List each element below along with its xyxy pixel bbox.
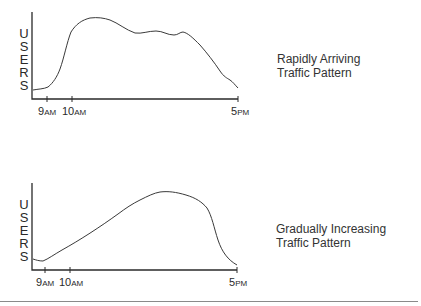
axes [32, 12, 238, 99]
y-axis-label: USERS [19, 26, 28, 93]
diagram-canvas: USERS 9AM 10AM 5PM USERS 9AM 10AM 5PM [0, 0, 421, 306]
traffic-curve-rapid [33, 18, 238, 90]
x-tick-label-9am: 9AM [36, 276, 54, 288]
chart-gradual: USERS 9AM 10AM 5PM [19, 183, 247, 288]
x-tick-label-10am: 10AM [59, 276, 84, 288]
caption-line-2: Traffic Pattern [277, 66, 360, 80]
caption-rapid: Rapidly Arriving Traffic Pattern [277, 52, 360, 80]
x-tick-label-5pm: 5PM [231, 105, 249, 117]
x-tick-label-10am: 10AM [62, 105, 87, 117]
caption-line-1: Gradually Increasing [276, 222, 386, 236]
caption-line-1: Rapidly Arriving [277, 52, 360, 66]
axes [32, 183, 237, 270]
caption-line-2: Traffic Pattern [276, 236, 386, 250]
x-tick-label-5pm: 5PM [229, 276, 247, 288]
bottom-divider [0, 301, 418, 302]
x-tick-label-9am: 9AM [38, 105, 56, 117]
chart-rapid: USERS 9AM 10AM 5PM [19, 12, 249, 117]
caption-gradual: Gradually Increasing Traffic Pattern [276, 222, 386, 250]
y-axis-label: USERS [19, 197, 28, 264]
traffic-curve-gradual [33, 192, 237, 265]
